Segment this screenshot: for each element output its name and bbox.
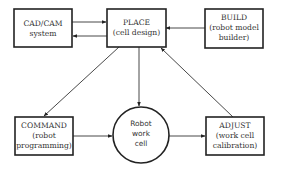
node-workcell: Robot work cell: [113, 107, 169, 163]
node-command: COMMAND (robot programming): [15, 117, 73, 155]
workcell-line2: work: [132, 129, 151, 138]
adjust-subtitle-2: calibration): [213, 141, 258, 150]
workflow-diagram: CAD/CAM system PLACE (cell design) BUILD…: [0, 0, 284, 171]
command-title: COMMAND: [21, 121, 67, 130]
place-title: PLACE: [123, 18, 150, 27]
workcell-line1: Robot: [130, 119, 152, 128]
build-subtitle-1: (robot model: [209, 23, 259, 32]
cadcam-subtitle: system: [30, 29, 57, 38]
adjust-subtitle-1: (work cell: [216, 131, 255, 140]
edge-adjust-to-place: [161, 48, 233, 117]
node-adjust: ADJUST (work cell calibration): [206, 117, 264, 155]
adjust-title: ADJUST: [218, 121, 250, 130]
command-subtitle-2: programming): [16, 141, 72, 150]
cadcam-title: CAD/CAM: [23, 19, 62, 28]
workcell-line3: cell: [135, 139, 148, 148]
node-cadcam: CAD/CAM system: [14, 9, 72, 47]
build-subtitle-2: builder): [219, 33, 250, 42]
command-subtitle-1: (robot: [32, 131, 56, 140]
build-title: BUILD: [221, 13, 247, 22]
edge-place-to-command: [44, 47, 119, 116]
node-build: BUILD (robot model builder): [205, 9, 263, 48]
node-place: PLACE (cell design): [107, 9, 166, 47]
place-subtitle: (cell design): [113, 28, 160, 37]
